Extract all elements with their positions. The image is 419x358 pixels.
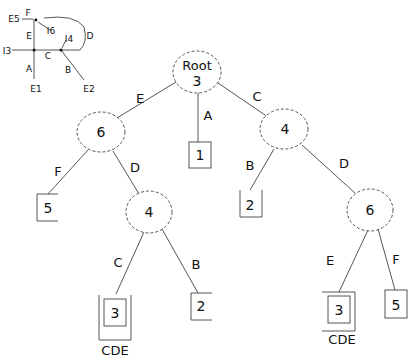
inset-label-a: A — [26, 65, 32, 74]
inset-label-i4: I4 — [65, 35, 73, 44]
edge-label-c: C — [113, 256, 122, 269]
inset-label-i3: I3 — [3, 47, 11, 56]
edge-label-f: F — [392, 253, 399, 266]
inset-label-e5: E5 — [8, 15, 19, 24]
leaf-3a-value: 3 — [111, 307, 120, 320]
inset-label-d: D — [87, 32, 94, 41]
edge-label-b: B — [192, 258, 201, 271]
node-right6-value: 6 — [366, 204, 375, 217]
leaf-2b-value: 2 — [197, 300, 206, 313]
leaf-3b-caption: CDE — [328, 333, 355, 346]
leaf-1-value: 1 — [196, 149, 205, 162]
node-right4-value: 4 — [281, 123, 290, 136]
inset-label-b: B — [65, 66, 71, 75]
edge-label-d: D — [130, 161, 140, 174]
tree-edge-e — [339, 230, 368, 292]
edge-label-e: E — [136, 92, 144, 105]
edge-label-f: F — [54, 165, 61, 178]
inset-label-i6: I6 — [47, 27, 55, 36]
inset-label-f: F — [25, 9, 30, 18]
inset-node-dot — [35, 19, 38, 22]
leaf-5a-value: 5 — [44, 202, 53, 215]
edge-label-c: C — [252, 90, 261, 103]
edge-label-a: A — [204, 109, 213, 122]
leaf-2a-value: 2 — [246, 199, 255, 212]
inset-label-e2: E2 — [83, 85, 94, 94]
leaf-3b-value: 3 — [335, 304, 344, 317]
root-value: 3 — [193, 75, 202, 88]
inset-label-c: C — [45, 52, 51, 61]
edge-label-e: E — [326, 254, 334, 267]
inset-node-dot — [32, 48, 35, 51]
tree-edge-e — [117, 82, 176, 118]
leaf-3a-caption: CDE — [101, 344, 128, 357]
inset-label-e: E — [26, 32, 32, 41]
edge-label-d: D — [339, 157, 349, 170]
edge-label-b: B — [246, 159, 255, 172]
node-left6-value: 6 — [97, 126, 106, 139]
inset-label-e1: E1 — [30, 85, 41, 94]
diagram-canvas — [0, 0, 419, 358]
node-mid4-value: 4 — [145, 206, 154, 219]
root-title: Root — [182, 59, 211, 72]
leaf-5b-value: 5 — [392, 299, 401, 312]
inset-node-dot — [59, 48, 62, 51]
